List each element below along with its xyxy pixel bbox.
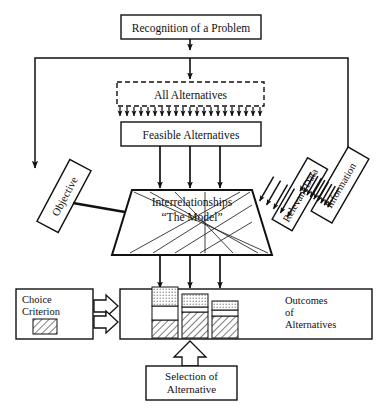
model-label-line1: Interrelationships	[152, 196, 233, 209]
node-all-alternatives[interactable]: All Alternatives	[117, 82, 264, 106]
bar-segment-dotted	[152, 287, 178, 306]
choice-criterion-label-line1: Choice	[22, 294, 52, 305]
choice-criterion-swatch	[33, 319, 57, 334]
selection-label-line1: Selection of	[165, 370, 218, 382]
arrows-feasible-to-model	[160, 146, 220, 188]
choice-criterion-label-line2: Criterion	[22, 306, 61, 317]
outcome-bar-2	[182, 294, 208, 338]
block-arrow-criterion-to-outcomes-2	[94, 311, 118, 333]
outcome-bar-1	[152, 287, 178, 338]
bar-segment-hatched	[152, 320, 178, 338]
bar-segment-dotted	[212, 301, 238, 310]
bar-segment-white	[182, 307, 208, 312]
arrows-all-to-feasible	[120, 107, 260, 116]
block-arrow-selection-to-outcome	[174, 341, 206, 366]
node-information[interactable]: Information	[311, 147, 369, 223]
arrows-model-to-outcomes	[160, 255, 220, 288]
feasible-alternatives-label: Feasible Alternatives	[143, 129, 240, 141]
outcomes-label-line3: Alternatives	[285, 319, 336, 330]
bar-segment-dotted	[182, 294, 208, 307]
all-alternatives-label: All Alternatives	[154, 89, 228, 101]
bar-segment-white	[212, 310, 238, 316]
node-feasible-alternatives[interactable]: Feasible Alternatives	[121, 122, 261, 146]
feedback-loop-left	[35, 58, 190, 168]
recognition-label: Recognition of a Problem	[132, 22, 251, 35]
decision-process-diagram: Recognition of a Problem All Alternative…	[0, 0, 387, 413]
feedback-loop-right	[190, 58, 348, 168]
bar-segment-white	[152, 306, 178, 320]
model-label-line2: “The Model”	[162, 211, 223, 223]
node-model[interactable]: Interrelationships “The Model”	[112, 190, 272, 255]
bar-segment-hatched	[182, 312, 208, 338]
node-selection-of-alternative[interactable]: Selection of Alternative	[146, 366, 237, 400]
outcome-bar-3	[212, 301, 238, 338]
node-choice-criterion[interactable]: Choice Criterion	[16, 289, 93, 339]
selection-label-line2: Alternative	[167, 383, 217, 395]
node-objective[interactable]: Objective	[37, 159, 91, 232]
node-recognition-of-problem[interactable]: Recognition of a Problem	[121, 15, 261, 39]
outcomes-label-line2: of	[285, 307, 294, 318]
bar-segment-hatched	[212, 316, 238, 338]
outcomes-label-line1: Outcomes	[285, 295, 328, 306]
